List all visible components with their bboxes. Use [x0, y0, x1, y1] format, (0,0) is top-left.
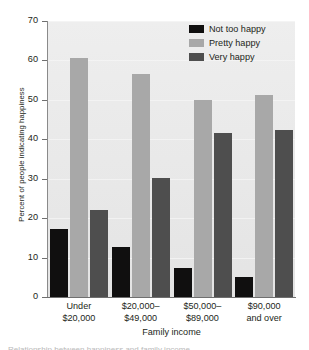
y-axis-tick-label: 60 [12, 55, 38, 64]
bar [50, 229, 68, 297]
x-axis-line [47, 297, 296, 298]
bar [214, 133, 232, 297]
bar-group [110, 21, 172, 297]
x-axis-category-label: $90,000and over [227, 301, 301, 324]
y-axis-tick-label: 50 [12, 95, 38, 104]
legend-label: Very happy [209, 52, 255, 62]
y-axis-tick [42, 21, 47, 22]
bar [112, 247, 130, 297]
bar [132, 74, 150, 297]
legend-label: Pretty happy [209, 38, 260, 48]
y-axis-tick [42, 60, 47, 61]
bar [152, 178, 170, 297]
legend-item: Pretty happy [189, 37, 293, 49]
chart-legend: Not too happyPretty happyVery happy [189, 23, 293, 65]
y-axis-tick-label: 40 [12, 134, 38, 143]
y-axis-tick-label: 70 [12, 16, 38, 25]
y-axis-tick [42, 297, 47, 298]
y-axis-line [47, 21, 48, 298]
bar [70, 58, 88, 297]
y-axis-tick [42, 179, 47, 180]
y-axis-tick [42, 218, 47, 219]
legend-swatch [189, 53, 204, 61]
legend-item: Not too happy [189, 23, 293, 35]
x-axis-category-labels: Under$20,000$20,000–$49,000$50,000–$89,0… [48, 301, 295, 327]
y-axis-tick [42, 258, 47, 259]
legend-swatch [189, 25, 204, 33]
legend-swatch [189, 39, 204, 47]
bar [255, 95, 273, 297]
x-axis-title: Family income [48, 327, 295, 337]
bar [235, 277, 253, 297]
legend-item: Very happy [189, 51, 293, 63]
caption-sliver: Relationship between happiness and famil… [8, 344, 298, 350]
y-axis-tick-label: 0 [12, 292, 38, 301]
bar-chart-figure: Percent of people indicating happiness 0… [0, 0, 309, 350]
bar [275, 130, 293, 297]
bar [174, 268, 192, 297]
y-axis-tick [42, 100, 47, 101]
category-label-line: and over [227, 313, 301, 325]
y-axis-title: Percent of people indicating happiness [17, 50, 26, 260]
category-label-line: $90,000 [227, 301, 301, 313]
y-axis-tick [42, 139, 47, 140]
bar [194, 100, 212, 297]
bar-group [48, 21, 110, 297]
y-axis-tick-label: 30 [12, 174, 38, 183]
y-axis-tick-label: 10 [12, 253, 38, 262]
y-axis-tick-label: 20 [12, 213, 38, 222]
legend-label: Not too happy [209, 24, 266, 34]
bar [90, 210, 108, 297]
